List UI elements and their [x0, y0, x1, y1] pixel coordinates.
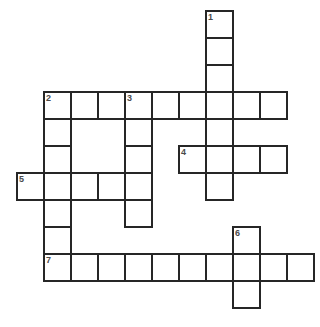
- crossword-cell[interactable]: [205, 64, 234, 93]
- crossword-cell[interactable]: [205, 118, 234, 147]
- crossword-cell[interactable]: 5: [16, 172, 45, 201]
- crossword-cell[interactable]: 3: [124, 91, 153, 120]
- crossword-cell[interactable]: [124, 118, 153, 147]
- clue-number-7: 7: [46, 255, 51, 265]
- crossword-cell[interactable]: [70, 172, 99, 201]
- crossword-cell[interactable]: [178, 253, 207, 282]
- crossword-cell[interactable]: [43, 172, 72, 201]
- crossword-cell[interactable]: [205, 91, 234, 120]
- crossword-cell[interactable]: [43, 226, 72, 255]
- crossword-cell[interactable]: 4: [178, 145, 207, 174]
- crossword-cell[interactable]: [151, 91, 180, 120]
- crossword-cell[interactable]: 2: [43, 91, 72, 120]
- crossword-cell[interactable]: [178, 91, 207, 120]
- crossword-cell[interactable]: [43, 145, 72, 174]
- clue-number-2: 2: [46, 93, 51, 103]
- crossword-cell[interactable]: [205, 172, 234, 201]
- crossword-cell[interactable]: [70, 253, 99, 282]
- crossword-grid: 1234567: [0, 0, 320, 327]
- crossword-cell[interactable]: [286, 253, 315, 282]
- crossword-cell[interactable]: [205, 37, 234, 66]
- crossword-cell[interactable]: [43, 199, 72, 228]
- crossword-cell[interactable]: [232, 280, 261, 309]
- crossword-cell[interactable]: [97, 91, 126, 120]
- crossword-cell[interactable]: [205, 145, 234, 174]
- crossword-cell[interactable]: 6: [232, 226, 261, 255]
- clue-number-6: 6: [235, 228, 240, 238]
- crossword-cell[interactable]: [232, 91, 261, 120]
- crossword-cell[interactable]: [124, 253, 153, 282]
- crossword-cell[interactable]: [70, 91, 99, 120]
- crossword-cell[interactable]: [124, 145, 153, 174]
- crossword-cell[interactable]: [259, 145, 288, 174]
- clue-number-4: 4: [181, 147, 186, 157]
- crossword-cell[interactable]: 7: [43, 253, 72, 282]
- crossword-cell[interactable]: [124, 199, 153, 228]
- crossword-cell[interactable]: [232, 253, 261, 282]
- crossword-cell[interactable]: [124, 172, 153, 201]
- crossword-cell[interactable]: [232, 145, 261, 174]
- clue-number-3: 3: [127, 93, 132, 103]
- clue-number-1: 1: [208, 12, 213, 22]
- crossword-cell[interactable]: [43, 118, 72, 147]
- crossword-cell[interactable]: [97, 253, 126, 282]
- clue-number-5: 5: [19, 174, 24, 184]
- crossword-cell[interactable]: 1: [205, 10, 234, 39]
- crossword-cell[interactable]: [259, 253, 288, 282]
- crossword-cell[interactable]: [151, 253, 180, 282]
- crossword-cell[interactable]: [97, 172, 126, 201]
- crossword-cell[interactable]: [259, 91, 288, 120]
- crossword-cell[interactable]: [205, 253, 234, 282]
